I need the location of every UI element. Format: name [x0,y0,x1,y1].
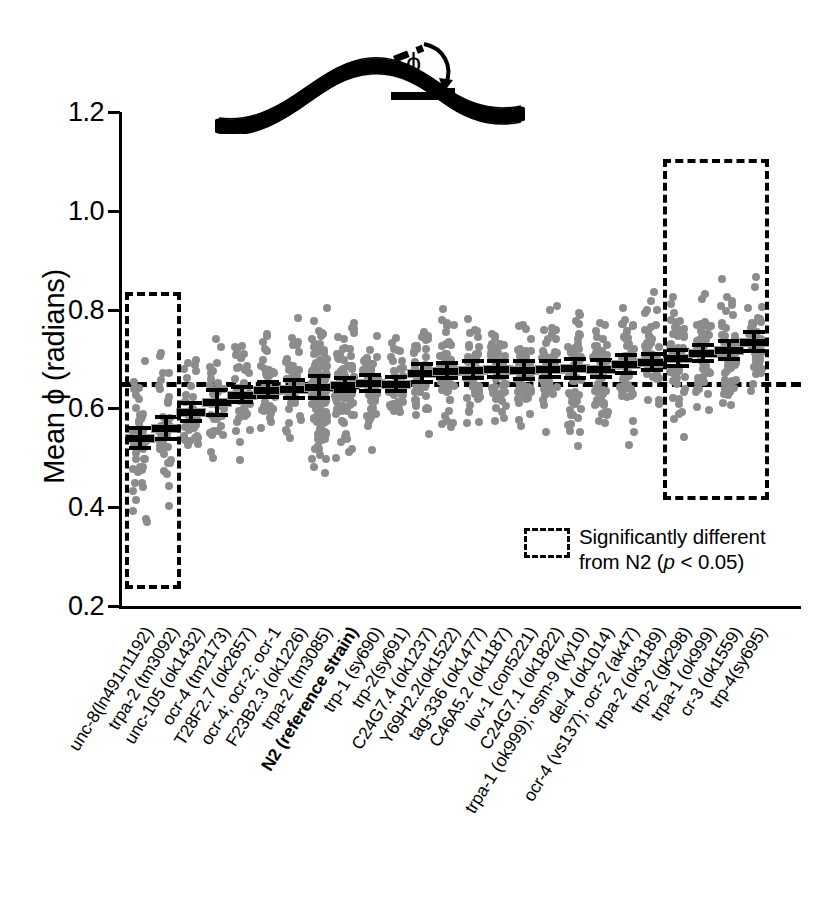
legend-label: Significantly different from N2 (p < 0.0… [579,524,766,574]
figure-panel: ϕ 1.21.00.80.60.40.2 Mean ϕ (radians) un… [0,0,823,900]
y-tick-mark [108,506,120,509]
y-tick-mark [108,210,120,213]
legend-dashed-box-swatch [524,528,570,558]
y-tick-mark [108,111,120,114]
legend-p-italic: p [664,550,675,573]
x-axis-labels: unc-8(ln491n1192)trpa-2 (tm3092)unc-105 … [0,0,823,900]
legend-line-2-post: < 0.05) [675,550,744,573]
legend-line-1: Significantly different [579,524,766,549]
y-tick-mark [108,407,120,410]
y-tick-mark [108,605,120,608]
legend-line-2: from N2 (p < 0.05) [579,549,766,574]
y-tick-mark [108,309,120,312]
legend: Significantly different from N2 (p < 0.0… [524,524,766,574]
legend-line-2-pre: from N2 ( [579,550,664,573]
